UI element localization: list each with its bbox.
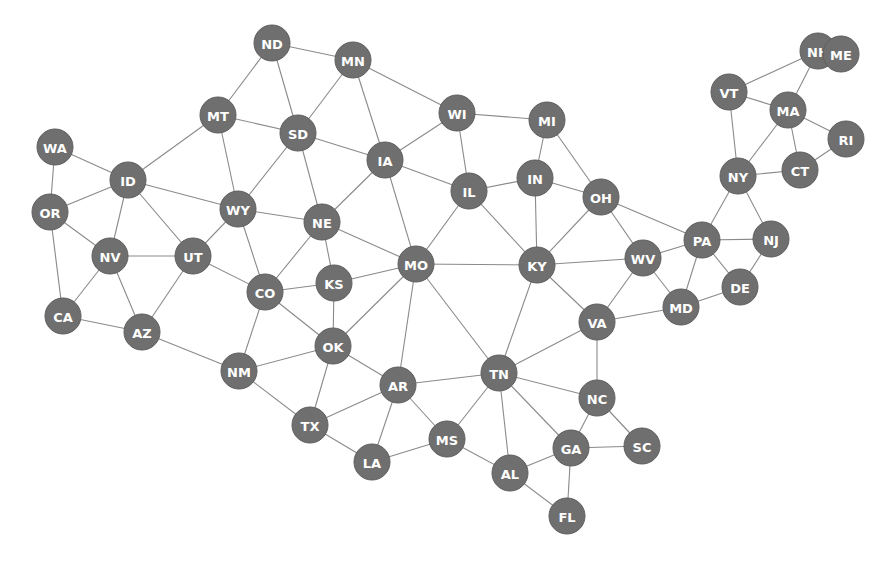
node-ny: NY — [720, 158, 756, 194]
node-label: OH — [590, 191, 612, 206]
node-label: VA — [587, 316, 606, 331]
node-ks: KS — [316, 265, 352, 301]
node-tn: TN — [481, 355, 517, 391]
node-ne: NE — [304, 204, 340, 240]
node-label: OK — [322, 340, 344, 355]
node-label: FL — [558, 510, 575, 525]
node-ma: MA — [770, 92, 806, 128]
node-label: MD — [669, 301, 693, 316]
node-mt: MT — [200, 97, 236, 133]
node-label: MN — [341, 54, 365, 69]
node-label: NJ — [763, 233, 779, 248]
node-in: IN — [517, 160, 553, 196]
node-il: IL — [451, 173, 487, 209]
node-va: VA — [579, 304, 615, 340]
node-label: IN — [527, 172, 543, 187]
node-or: OR — [32, 194, 68, 230]
node-az: AZ — [124, 314, 160, 350]
node-label: CT — [791, 164, 810, 179]
node-label: WY — [226, 203, 250, 218]
node-wa: WA — [37, 129, 73, 165]
node-nj: NJ — [753, 221, 789, 257]
node-label: AL — [501, 467, 519, 482]
node-label: ME — [830, 48, 852, 63]
node-label: NY — [728, 170, 749, 185]
node-ky: KY — [519, 247, 555, 283]
node-mn: MN — [335, 42, 371, 78]
node-label: DE — [730, 281, 750, 296]
node-co: CO — [247, 274, 283, 310]
node-de: DE — [722, 269, 758, 305]
state-adjacency-graph: WAORCANVIDMTNDSDMNWYUTAZCONEKSNMOKTXARLA… — [0, 0, 895, 564]
node-label: KS — [324, 277, 343, 292]
node-wi: WI — [439, 95, 475, 131]
node-label: WI — [447, 107, 466, 122]
node-ga: GA — [553, 430, 589, 466]
node-ca: CA — [45, 298, 81, 334]
node-label: SD — [288, 127, 308, 142]
node-label: TN — [489, 367, 509, 382]
node-label: IA — [378, 154, 393, 169]
node-label: NV — [100, 250, 121, 265]
node-label: SC — [633, 440, 652, 455]
node-me: ME — [823, 36, 859, 72]
node-vt: VT — [711, 74, 747, 110]
node-nm: NM — [221, 353, 257, 389]
node-label: OR — [39, 206, 60, 221]
node-label: AZ — [132, 326, 152, 341]
node-label: ND — [261, 37, 283, 52]
node-nd: ND — [254, 25, 290, 61]
node-tx: TX — [292, 407, 328, 443]
node-label: KY — [527, 259, 547, 274]
node-label: MA — [777, 104, 800, 119]
node-ok: OK — [315, 328, 351, 364]
node-nc: NC — [579, 380, 615, 416]
node-label: AR — [388, 379, 408, 394]
node-label: WA — [43, 141, 67, 156]
node-ut: UT — [175, 238, 211, 274]
node-ar: AR — [380, 367, 416, 403]
node-md: MD — [663, 289, 699, 325]
node-label: WV — [631, 252, 655, 267]
node-sd: SD — [280, 115, 316, 151]
node-label: VT — [720, 86, 739, 101]
node-label: TX — [301, 419, 320, 434]
node-pa: PA — [684, 222, 720, 258]
node-ri: RI — [828, 121, 864, 157]
node-label: MO — [404, 258, 428, 273]
node-label: CO — [255, 286, 276, 301]
edge-mo-tn — [416, 264, 499, 373]
node-wy: WY — [220, 191, 256, 227]
node-label: UT — [183, 250, 203, 265]
node-label: ID — [120, 174, 136, 189]
node-label: GA — [561, 442, 582, 457]
node-mi: MI — [529, 102, 565, 138]
node-ct: CT — [782, 152, 818, 188]
node-sc: SC — [624, 428, 660, 464]
node-oh: OH — [583, 179, 619, 215]
node-ms: MS — [429, 421, 465, 457]
node-label: IL — [462, 185, 475, 200]
node-label: CA — [53, 310, 73, 325]
node-mo: MO — [398, 246, 434, 282]
node-label: NM — [227, 365, 251, 380]
node-label: MS — [436, 433, 458, 448]
nodes-layer: WAORCANVIDMTNDSDMNWYUTAZCONEKSNMOKTXARLA… — [32, 25, 864, 534]
node-la: LA — [354, 444, 390, 480]
node-label: NC — [587, 392, 607, 407]
node-wv: WV — [625, 240, 661, 276]
node-al: AL — [492, 455, 528, 491]
node-label: MI — [538, 114, 556, 129]
node-label: PA — [693, 234, 711, 249]
node-nv: NV — [92, 238, 128, 274]
node-label: LA — [363, 456, 381, 471]
node-label: RI — [839, 133, 854, 148]
node-id: ID — [110, 162, 146, 198]
node-fl: FL — [549, 498, 585, 534]
node-label: NE — [312, 216, 332, 231]
node-label: MT — [207, 109, 229, 124]
node-ia: IA — [367, 142, 403, 178]
